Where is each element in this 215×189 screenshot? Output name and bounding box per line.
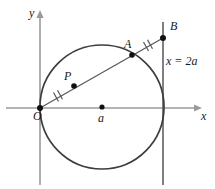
tick-marks-AB bbox=[144, 40, 153, 51]
diagram-canvas bbox=[0, 0, 215, 189]
point-B bbox=[160, 35, 166, 41]
geometry-figure: y x O a P A B x = 2a bbox=[0, 0, 215, 189]
y-axis-arrowhead bbox=[36, 10, 43, 18]
line-equation-label: x = 2a bbox=[166, 55, 197, 67]
point-a-label: A bbox=[124, 38, 131, 50]
point-A bbox=[129, 52, 135, 58]
point-p-label: P bbox=[64, 70, 71, 82]
ray-OB bbox=[40, 38, 163, 108]
center-label: a bbox=[98, 112, 104, 124]
x-axis-label: x bbox=[201, 110, 206, 122]
origin-label: O bbox=[33, 110, 42, 122]
point-b-label: B bbox=[170, 20, 177, 32]
y-axis-label: y bbox=[29, 7, 34, 19]
point-center-a bbox=[99, 104, 104, 109]
point-P bbox=[71, 83, 77, 89]
